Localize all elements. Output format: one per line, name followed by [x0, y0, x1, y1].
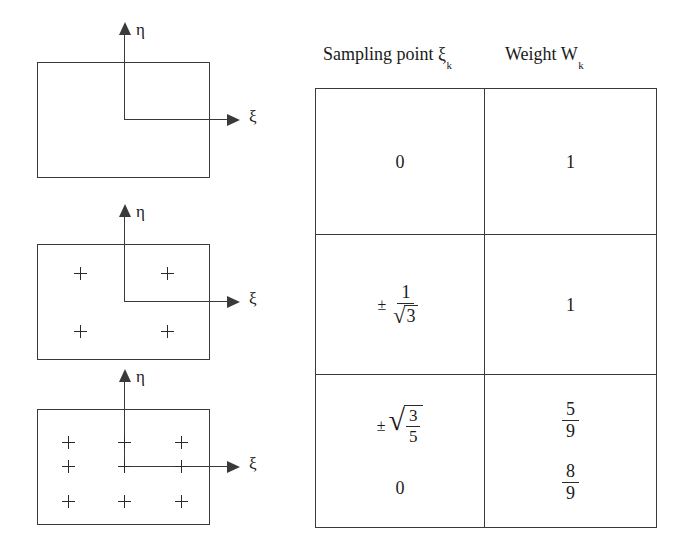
eta-axis-arrowhead [119, 22, 131, 35]
fraction-numerator: 1 [397, 283, 414, 304]
cell-weight: 5 9 8 9 [484, 375, 656, 527]
radicand: 3 5 [404, 405, 424, 446]
radical-sign: √ [393, 306, 405, 327]
sampling-point-marker [62, 436, 75, 449]
eta-axis-line [124, 30, 125, 120]
sampling-point-marker [62, 460, 75, 473]
sampling-point-marker [118, 460, 131, 473]
column-header-weight: Weight Wk [505, 44, 583, 67]
fraction: 3 5 [406, 407, 421, 446]
column-header-sampling-point-text: Sampling point ξ [323, 44, 446, 64]
xi-axis-arrowhead [227, 114, 240, 126]
sampling-point-marker [74, 267, 87, 280]
cell-weight: 1 [484, 235, 656, 374]
column-header-weight-text: Weight W [505, 44, 578, 64]
sampling-point-marker [62, 495, 75, 508]
xi-axis-line [124, 301, 230, 302]
sampling-point-marker [118, 436, 131, 449]
xi-axis-label: ξ [249, 455, 257, 472]
column-header-sampling-point: Sampling point ξk [323, 44, 452, 67]
cell-sampling-point: ± 1 √3 [316, 235, 484, 374]
sampling-point-marker [175, 436, 188, 449]
fraction-numerator: 3 [406, 407, 421, 427]
weight-value: 1 [566, 296, 575, 314]
element-diagram-three-by-three: η ξ [0, 355, 300, 535]
element-diagram-one-point: η ξ [0, 8, 300, 188]
table-row: ± √ 3 5 0 5 9 [316, 374, 656, 527]
column-header-sampling-point-subscript: k [447, 59, 453, 71]
fraction-numerator: 8 [562, 462, 579, 483]
fraction-denominator: √3 [389, 304, 422, 326]
eta-axis-line [124, 212, 125, 302]
fraction-denominator: 9 [562, 483, 579, 503]
sampling-point-marker [161, 267, 174, 280]
sampling-point-marker [161, 325, 174, 338]
sampling-point-value: ± 1 √3 [378, 283, 423, 326]
fraction: 1 √3 [389, 283, 422, 326]
xi-axis-label: ξ [249, 108, 257, 125]
sampling-point-value-secondary: 0 [396, 479, 405, 497]
plus-minus-sign: ± [378, 297, 387, 313]
sampling-point-marker [118, 495, 131, 508]
fraction-denominator: 9 [562, 421, 579, 441]
quadrature-table-container: Sampling point ξk Weight Wk 0 1 ± 1 [315, 40, 660, 84]
cell-sampling-point: ± √ 3 5 0 [316, 375, 484, 527]
sampling-point-value: 0 [396, 153, 405, 171]
table-row: ± 1 √3 1 [316, 234, 656, 374]
table-header-row: Sampling point ξk Weight Wk [315, 40, 660, 84]
eta-axis-arrowhead [119, 204, 131, 217]
xi-axis-label: ξ [249, 290, 257, 307]
eta-axis-label: η [136, 21, 145, 38]
eta-axis-line [124, 377, 125, 467]
eta-axis-arrowhead [119, 369, 131, 382]
xi-axis-line [124, 119, 230, 120]
table-row: 0 1 [316, 89, 656, 234]
weight-value-secondary: 8 9 [562, 462, 579, 503]
xi-axis-arrowhead [227, 461, 240, 473]
weight-value: 1 [566, 153, 575, 171]
column-header-weight-subscript: k [578, 59, 584, 71]
square-root: √3 [393, 305, 418, 326]
quadrature-table: 0 1 ± 1 √3 [315, 88, 657, 528]
plus-minus-sign: ± [377, 418, 386, 434]
fraction-denominator: 5 [406, 427, 421, 446]
sampling-point-marker [175, 460, 188, 473]
sampling-point-value-primary: ± √ 3 5 [377, 405, 424, 446]
eta-axis-label: η [136, 368, 145, 385]
radicand: 3 [404, 305, 418, 326]
fraction-numerator: 5 [562, 400, 579, 421]
element-diagram-two-by-two: η ξ [0, 190, 300, 370]
eta-axis-label: η [136, 203, 145, 220]
square-root: √ 3 5 [388, 405, 423, 446]
sampling-point-marker [175, 495, 188, 508]
cell-sampling-point: 0 [316, 89, 484, 234]
xi-axis-arrowhead [227, 296, 240, 308]
weight-value-primary: 5 9 [562, 400, 579, 441]
radical-sign: √ [388, 406, 404, 447]
cell-weight: 1 [484, 89, 656, 234]
sampling-point-marker [74, 325, 87, 338]
